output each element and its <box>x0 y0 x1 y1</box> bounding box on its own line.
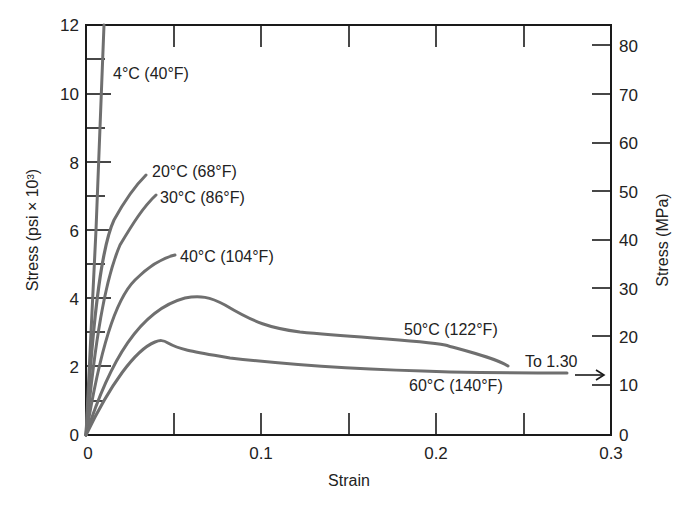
curves <box>86 25 567 435</box>
bottom-tick-labels: 0 0.1 0.2 0.3 <box>83 444 623 463</box>
svg-text:10: 10 <box>619 376 638 395</box>
svg-text:2: 2 <box>70 358 79 377</box>
svg-text:0.2: 0.2 <box>424 444 448 463</box>
curve-label-60c: 60°C (140°F) <box>409 377 503 394</box>
curve-label-30c: 30°C (86°F) <box>160 189 245 206</box>
svg-text:80: 80 <box>619 37 638 56</box>
y-axis-title: Stress (psi × 10³) <box>24 169 41 291</box>
left-tick-labels: 0 2 4 6 8 10 12 <box>60 16 79 445</box>
curve-label-40c: 40°C (104°F) <box>180 248 274 265</box>
curve-label-20c: 20°C (68°F) <box>152 163 237 180</box>
svg-text:4: 4 <box>70 290 79 309</box>
svg-text:6: 6 <box>70 222 79 241</box>
to-label: To 1.30 <box>525 353 578 370</box>
svg-text:60: 60 <box>619 134 638 153</box>
svg-text:50: 50 <box>619 183 638 202</box>
svg-text:0: 0 <box>70 426 79 445</box>
svg-text:10: 10 <box>60 85 79 104</box>
curve-label-50c: 50°C (122°F) <box>404 321 498 338</box>
right-ticks <box>592 45 611 385</box>
curve-20c <box>86 175 146 435</box>
svg-text:0.3: 0.3 <box>599 444 623 463</box>
y-axis-right-title: Stress (MPa) <box>654 193 671 286</box>
svg-text:40: 40 <box>619 231 638 250</box>
svg-text:0: 0 <box>619 426 628 445</box>
stress-strain-chart: 0 2 4 6 8 10 12 0 10 20 30 40 50 60 70 8… <box>0 0 694 505</box>
svg-text:8: 8 <box>70 154 79 173</box>
x-axis-title: Strain <box>328 472 370 489</box>
svg-text:70: 70 <box>619 86 638 105</box>
svg-text:20: 20 <box>619 328 638 347</box>
svg-text:0.1: 0.1 <box>249 444 273 463</box>
svg-text:30: 30 <box>619 280 638 299</box>
svg-text:0: 0 <box>83 444 92 463</box>
right-tick-labels: 0 10 20 30 40 50 60 70 80 <box>619 37 638 445</box>
svg-text:12: 12 <box>60 16 79 35</box>
curve-label-4c: 4°C (40°F) <box>113 65 189 82</box>
arrow-icon <box>575 370 604 380</box>
top-ticks <box>174 25 524 47</box>
bottom-ticks <box>174 413 524 435</box>
